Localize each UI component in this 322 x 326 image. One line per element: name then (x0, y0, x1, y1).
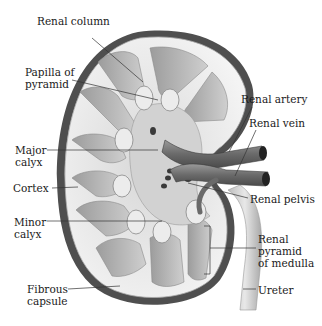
label-renal-column: Renal column (37, 15, 110, 27)
label-ureter: Ureter (258, 284, 294, 296)
kidney-diagram (0, 0, 322, 326)
renal-artery-opening (259, 146, 267, 160)
label-cortex: Cortex (13, 182, 49, 194)
label-renal-pyramid-of-medulla: Renal pyramid of medulla (258, 233, 314, 269)
label-renal-pelvis: Renal pelvis (250, 193, 315, 205)
label-renal-vein: Renal vein (249, 117, 305, 129)
renal-vein-opening (262, 172, 270, 186)
label-papilla-of-pyramid: Papilla of pyramid (25, 66, 74, 90)
label-major-calyx: Major calyx (15, 144, 47, 168)
label-minor-calyx: Minor calyx (14, 216, 46, 240)
label-fibrous-capsule: Fibrous capsule (27, 283, 68, 307)
label-renal-artery: Renal artery (241, 93, 308, 105)
